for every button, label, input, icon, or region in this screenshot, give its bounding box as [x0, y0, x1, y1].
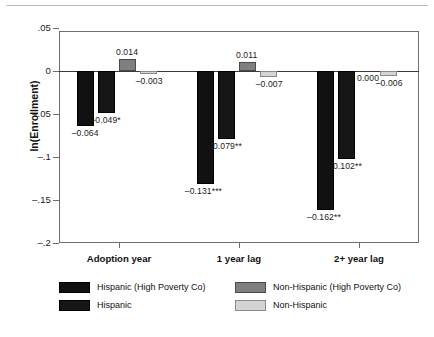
bar-non_hispanic_high_poverty-1 — [239, 62, 256, 71]
y-tick-label: .05 — [20, 23, 51, 33]
bar-value-label: 0.011 — [236, 51, 257, 60]
y-tick-mark — [53, 28, 59, 29]
legend-swatch-icon — [235, 300, 266, 311]
bar-value-label: –0.007 — [256, 80, 283, 89]
y-tick-mark — [53, 157, 59, 158]
bar-value-label: 0.014 — [116, 48, 138, 57]
bar-value-label: –0.049* — [90, 116, 120, 125]
bar-value-label: –0.102** — [328, 162, 362, 171]
chart-legend: Hispanic (High Poverty Co)HispanicNon-Hi… — [59, 281, 411, 321]
legend-item[interactable]: Hispanic — [59, 299, 132, 312]
legend-label: Hispanic — [97, 301, 132, 310]
y-tick-label: –.15 — [20, 195, 51, 205]
x-category-label: Adoption year — [59, 253, 179, 264]
bar-value-label: –0.006 — [376, 79, 403, 88]
y-tick-label: –.05 — [20, 109, 51, 119]
legend-label: Non-Hispanic (High Poverty Co) — [273, 283, 401, 292]
top-divider — [6, 5, 428, 6]
x-category-label: 2+ year lag — [299, 253, 419, 264]
x-category-label: 1 year lag — [179, 253, 299, 264]
bar-non_hispanic-2 — [380, 71, 397, 76]
y-tick-label: 0 — [20, 66, 51, 76]
bar-value-label: –0.003 — [136, 77, 163, 86]
legend-label: Non-Hispanic — [273, 301, 327, 310]
y-tick-mark — [53, 114, 59, 115]
x-tick-mark — [359, 243, 360, 248]
bar-hispanic_high_poverty-1 — [197, 71, 214, 184]
bar-non_hispanic-0 — [140, 71, 157, 74]
bar-value-label: –0.162** — [307, 213, 341, 222]
y-axis: ln(Enrollment) — [18, 0, 59, 337]
y-tick-label: –.2 — [20, 238, 51, 248]
bar-non_hispanic_high_poverty-0 — [119, 59, 136, 71]
y-tick-mark — [53, 71, 59, 72]
x-tick-mark — [119, 243, 120, 248]
legend-label: Hispanic (High Poverty Co) — [97, 283, 206, 292]
bar-hispanic-2 — [338, 71, 355, 159]
legend-swatch-icon — [59, 300, 90, 311]
legend-item[interactable]: Hispanic (High Poverty Co) — [59, 281, 206, 294]
bar-value-label: –0.079** — [208, 142, 242, 151]
y-tick-label: –.1 — [20, 152, 51, 162]
bar-non_hispanic-1 — [260, 71, 277, 77]
y-tick-mark — [53, 200, 59, 201]
bar-value-label: –0.064 — [72, 129, 99, 138]
y-tick-mark — [53, 243, 59, 244]
bar-hispanic-1 — [218, 71, 235, 139]
legend-swatch-icon — [59, 282, 90, 293]
bar-value-label: –0.131*** — [185, 187, 222, 196]
chart-root: ln(Enrollment) .050–.05–.1–.15–.2 –0.064… — [0, 0, 434, 337]
x-tick-mark — [239, 243, 240, 248]
bar-hispanic-0 — [98, 71, 115, 113]
legend-item[interactable]: Non-Hispanic — [235, 299, 327, 312]
legend-swatch-icon — [235, 282, 266, 293]
legend-item[interactable]: Non-Hispanic (High Poverty Co) — [235, 281, 401, 294]
bar-hispanic_high_poverty-2 — [317, 71, 334, 210]
